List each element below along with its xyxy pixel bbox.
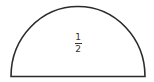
fraction-label: 1 2 <box>68 33 88 54</box>
fraction-numerator: 1 <box>75 33 81 42</box>
fraction-denominator: 2 <box>75 45 81 54</box>
